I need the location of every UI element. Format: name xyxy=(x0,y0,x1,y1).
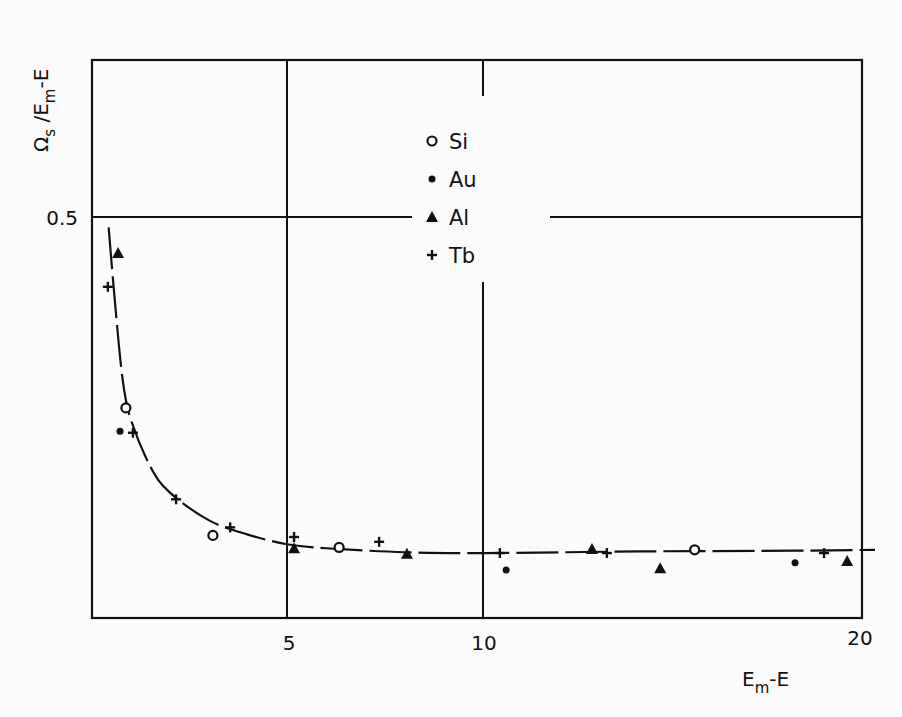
data-point-al xyxy=(586,543,598,554)
x-tick-label: 10 xyxy=(471,631,496,655)
data-point-al xyxy=(112,247,124,258)
data-point-si xyxy=(335,543,344,552)
svg-text:Em-E: Em-E xyxy=(742,667,789,697)
legend-marker-al xyxy=(426,211,438,222)
legend-label: Tb xyxy=(448,244,475,268)
data-point-si xyxy=(121,403,130,412)
fit-curve xyxy=(109,227,875,553)
y-tick-label: 0.5 xyxy=(46,206,78,230)
data-point-tb xyxy=(374,537,384,547)
data-point-au xyxy=(117,428,124,435)
svg-text:Ωs /Em-E: Ωs /Em-E xyxy=(29,69,59,152)
y-axis-label: Ωs /Em-E xyxy=(29,69,59,152)
data-point-tb xyxy=(602,548,612,558)
data-point-tb xyxy=(103,282,113,292)
data-point-al xyxy=(841,555,853,566)
data-point-au xyxy=(792,559,799,566)
legend-marker-au xyxy=(429,176,436,183)
legend-label: Au xyxy=(449,168,477,192)
x-tick-label: 20 xyxy=(847,626,872,650)
legend-marker-si xyxy=(428,137,437,146)
legend-label: Si xyxy=(449,130,468,154)
data-point-tb xyxy=(495,548,505,558)
x-axis-label: Em-E xyxy=(742,667,789,697)
legend-label: Al xyxy=(449,206,469,230)
data-point-au xyxy=(503,566,510,573)
legend: SiAuAlTb xyxy=(426,130,477,268)
data-point-si xyxy=(690,545,699,554)
data-point-tb xyxy=(289,532,299,542)
data-point-al xyxy=(654,562,666,573)
legend-marker-tb xyxy=(427,250,437,260)
data-point-si xyxy=(208,531,217,540)
x-tick-label: 5 xyxy=(283,631,296,655)
chart: 0.5 5 10 20 Em-E Ωs /Em-E SiAuAlTb xyxy=(0,0,902,717)
